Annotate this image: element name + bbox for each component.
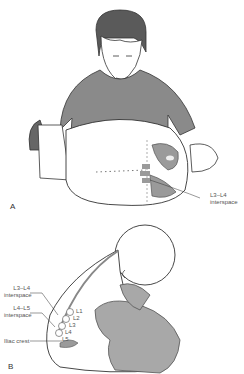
label-l3: L3 [69, 322, 76, 329]
label-l5: L5 [62, 336, 69, 343]
label-l1: L1 [76, 308, 83, 315]
label-l4-l5-interspace: L4–L5 interspace [4, 305, 30, 318]
sitting-position-illustration [0, 215, 244, 374]
label-l3-l4-interspace-a: L3–L4 interspace [210, 192, 238, 205]
panel-letter-b: B [8, 362, 13, 371]
label-iliac-crest: Iliac crest [4, 338, 32, 345]
label-l3-l4-interspace-b: L3–L4 interspace [4, 285, 30, 298]
panel-a: L3–L4 interspace A [0, 0, 244, 215]
label-l4: L4 [65, 329, 72, 336]
panel-letter-a: A [10, 202, 15, 211]
lateral-position-illustration [0, 0, 244, 215]
panel-b: L3–L4 interspace L4–L5 interspace Iliac … [0, 215, 244, 374]
label-l2: L2 [73, 315, 80, 322]
